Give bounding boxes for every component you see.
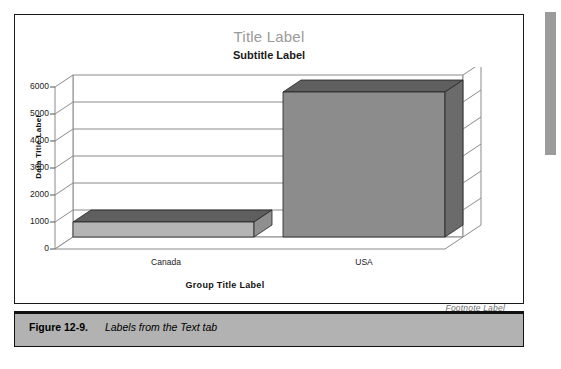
bar-canada: [73, 210, 272, 237]
y-axis-ticks: [50, 87, 55, 249]
ytick-label-1000: 1000: [5, 216, 49, 226]
figure-caption-number: Figure 12-9.: [29, 321, 88, 333]
ytick-label-6000: 6000: [5, 81, 49, 91]
x-axis-title: Group Title Label: [15, 280, 435, 290]
ytick-label-3000: 3000: [5, 162, 49, 172]
chart-subtitle: Subtitle Label: [15, 49, 523, 61]
xtick-label-canada: Canada: [126, 257, 206, 267]
ytick-label-2000: 2000: [5, 189, 49, 199]
figure-caption-bar: Figure 12-9. Labels from the Text tab: [14, 311, 524, 347]
floor: [55, 237, 463, 249]
ytick-label-5000: 5000: [5, 108, 49, 118]
chart-title: Title Label: [15, 28, 523, 45]
plot-svg: [33, 67, 505, 267]
ytick-label-0: 0: [5, 243, 49, 253]
plot-area: 6000 5000 4000 3000 2000 1000 0 Canada U…: [33, 67, 505, 267]
chart-panel: Title Label Subtitle Label Data Title La…: [14, 14, 524, 304]
right-wall: [463, 67, 481, 237]
figure-block: Title Label Subtitle Label Data Title La…: [14, 14, 526, 349]
page-edge-tab: [545, 12, 556, 155]
xtick-label-usa: USA: [324, 257, 404, 267]
ytick-label-4000: 4000: [5, 135, 49, 145]
figure-caption-text: Labels from the Text tab: [105, 321, 217, 333]
bar-usa: [283, 80, 463, 237]
